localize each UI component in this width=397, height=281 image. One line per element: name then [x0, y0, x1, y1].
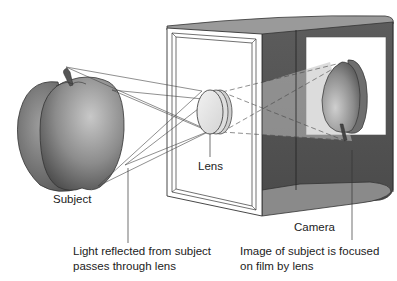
image-caption-line1: Image of subject is focused: [240, 244, 379, 258]
light-caption-line2: passes through lens: [73, 259, 176, 273]
subject-apple: [17, 68, 124, 191]
lens-label: Lens: [198, 159, 223, 173]
camera-label: Camera: [294, 220, 335, 234]
light-caption-line1: Light reflected from subject: [73, 244, 211, 258]
subject-label: Subject: [53, 192, 91, 206]
image-caption-line2: on film by lens: [240, 259, 314, 273]
camera-floor: [262, 182, 391, 216]
apple-front: [40, 77, 124, 190]
camera-diagram: [0, 0, 397, 281]
lens: [197, 90, 232, 134]
